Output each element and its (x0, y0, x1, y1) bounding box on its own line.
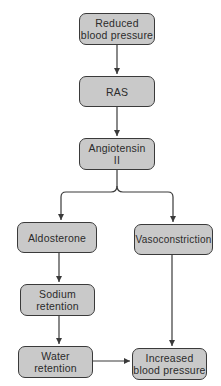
node-reduced-blood-pressure: Reduced blood pressure (79, 13, 155, 45)
node-angiotensin-ii: Angiotensin II (79, 138, 155, 170)
node-ras: RAS (79, 76, 155, 107)
arrow-angiotensin-branch (61, 170, 117, 220)
node-water-retention: Water retention (18, 346, 93, 378)
node-increased-blood-pressure: Increased blood pressure (132, 348, 207, 380)
arrow-angiotensin-to-vaso (117, 186, 173, 222)
node-sodium-retention: Sodium retention (20, 284, 95, 316)
node-vasoconstriction: Vasoconstriction (134, 224, 213, 255)
node-aldosterone: Aldosterone (17, 222, 97, 253)
flowchart-arrows (0, 0, 221, 386)
